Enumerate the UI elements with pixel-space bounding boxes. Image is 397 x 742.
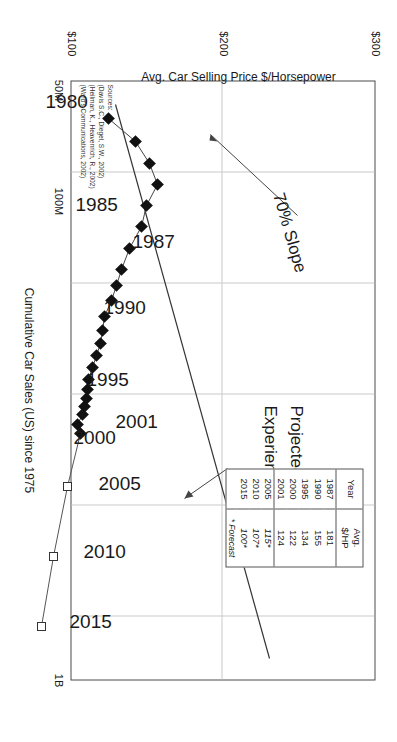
table-footnote: * Forecast	[226, 509, 237, 566]
table-cell-year: 2000	[286, 469, 298, 509]
sources-heading: Sources:	[105, 84, 114, 188]
table-cell-year: 1987	[323, 469, 336, 509]
table-row: 2005 115*	[261, 469, 274, 566]
table-header-avg: Avg. $/HP	[335, 509, 362, 566]
gridline-vertical-3	[71, 393, 374, 394]
table-cell-year: 2015	[236, 469, 248, 509]
sources-line-3: (Ward's Communications, 2002)	[78, 84, 87, 188]
y-tick-300: $300	[369, 0, 381, 56]
sources-line-1: (Davis S.C., Diegel, S.W., 2002)	[96, 84, 105, 188]
sources-line-2: (Heilman, K., Heavenrich, R., 2002)	[87, 84, 96, 188]
forecast-point[interactable]	[63, 482, 72, 491]
table-cell-avg: 134	[298, 509, 310, 566]
table-row: 1987 181	[323, 469, 336, 566]
y-axis-title: Avg. Car Selling Price $/Horsepower	[88, 69, 388, 83]
y-tick-200: $200	[217, 0, 229, 56]
forecast-point[interactable]	[37, 622, 46, 631]
table-row: 1995 134	[298, 469, 310, 566]
x-tick-100m: 100M	[52, 171, 64, 231]
table-header-avg-line1: Avg.	[350, 518, 362, 557]
data-table: Year Avg. $/HP 1987 181	[225, 468, 363, 567]
table-header-avg-line2: $/HP	[338, 518, 350, 557]
table-cell-year: 2010	[249, 469, 261, 509]
data-table-grid: Year Avg. $/HP 1987 181	[226, 469, 362, 566]
table-cell-avg: 155	[310, 509, 322, 566]
gridline-horizontal-200	[221, 81, 222, 679]
point-label-1990: 1990	[103, 296, 145, 318]
table-cell-avg: 124	[273, 509, 286, 566]
table-cell-avg: 181	[323, 509, 336, 566]
gridline-vertical-1	[71, 171, 374, 172]
point-label-2001: 2001	[115, 410, 157, 432]
table-header-year: Year	[335, 469, 362, 509]
table-cell-avg: 122	[286, 509, 298, 566]
x-tick-50m: 50M	[52, 60, 64, 120]
point-label-2010: 2010	[83, 540, 125, 562]
table-cell-avg: 115*	[261, 509, 274, 566]
forecast-point[interactable]	[49, 552, 58, 561]
table-header-row: Year Avg. $/HP	[335, 469, 362, 566]
point-label-1987: 1987	[132, 230, 174, 252]
table-row: 2000 122	[286, 469, 298, 566]
rotated-page-wrapper: 1980 1985 1987 1990 1995 2000 2001 2005 …	[0, 0, 397, 742]
table-cell-year: 2001	[273, 469, 286, 509]
x-axis-title: Cumulative Car Sales (US) since 1975	[21, 180, 35, 600]
table-row: 1990 155	[310, 469, 322, 566]
table-footnote-row: * Forecast	[226, 469, 237, 566]
table-footnote-spacer	[226, 469, 237, 509]
point-label-2005: 2005	[98, 472, 140, 494]
table-row: 2010 107*	[249, 469, 261, 566]
point-label-1985: 1985	[75, 193, 117, 215]
experience-curve-figure: 1980 1985 1987 1990 1995 2000 2001 2005 …	[0, 0, 397, 742]
table-cell-year: 1990	[310, 469, 322, 509]
chart-figure-upright: 1980 1985 1987 1990 1995 2000 2001 2005 …	[0, 0, 397, 742]
table-cell-year: 1995	[298, 469, 310, 509]
table-cell-avg: 100*	[236, 509, 248, 566]
table-cell-year: 2005	[261, 469, 274, 509]
point-label-2015: 2015	[69, 610, 111, 632]
gridline-vertical-5	[71, 615, 374, 616]
table-row: 2015 100*	[236, 469, 248, 566]
point-label-1995: 1995	[86, 368, 128, 390]
sources-block: Sources: (Davis S.C., Diegel, S.W., 2002…	[78, 84, 114, 188]
y-tick-100: $100	[65, 0, 77, 56]
x-tick-1b: 1B	[52, 650, 64, 710]
point-label-2000: 2000	[73, 426, 115, 448]
table-row: 2001 124	[273, 469, 286, 566]
table-cell-avg: 107*	[249, 509, 261, 566]
table-body: 1987 181 1990 155 1995 134 2000	[226, 469, 336, 566]
